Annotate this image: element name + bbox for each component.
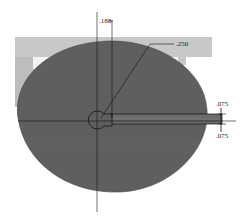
keyhole[interactable]: [88, 111, 112, 129]
dim-label-075-upper: .075: [216, 101, 228, 108]
dim-label-188: .188: [99, 18, 111, 25]
cad-drawing: [0, 0, 242, 224]
dim-label-075-lower: .075: [216, 133, 228, 140]
dim-label-250: .250: [176, 41, 188, 48]
